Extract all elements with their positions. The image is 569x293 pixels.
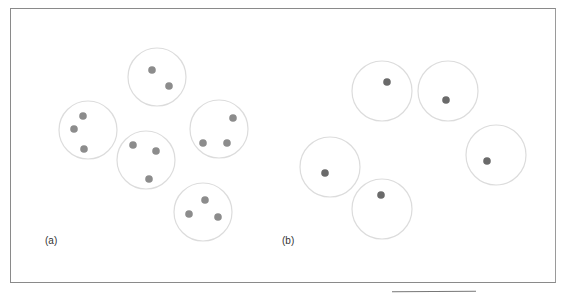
data-point bbox=[377, 191, 385, 199]
data-point bbox=[165, 82, 173, 90]
cluster-circle bbox=[300, 137, 360, 197]
data-point bbox=[483, 157, 491, 165]
cluster bbox=[59, 101, 117, 159]
data-point bbox=[214, 213, 222, 221]
panel-b bbox=[300, 61, 526, 239]
cluster-circle bbox=[466, 125, 526, 185]
data-point bbox=[185, 210, 193, 218]
cluster bbox=[352, 179, 412, 239]
cluster-diagram bbox=[0, 0, 569, 293]
data-point bbox=[148, 66, 156, 74]
data-point bbox=[79, 112, 87, 120]
data-point bbox=[70, 125, 78, 133]
data-point bbox=[442, 96, 450, 104]
cluster-circle bbox=[418, 61, 478, 121]
cluster-circle bbox=[352, 179, 412, 239]
cluster-circle bbox=[128, 48, 186, 106]
data-point bbox=[383, 78, 391, 86]
cluster-circle bbox=[352, 61, 412, 121]
cluster bbox=[174, 183, 232, 241]
cluster bbox=[300, 137, 360, 197]
data-point bbox=[129, 141, 137, 149]
panel-label-a: (a) bbox=[45, 235, 57, 246]
cluster-circle bbox=[190, 100, 248, 158]
data-point bbox=[152, 147, 160, 155]
data-point bbox=[223, 139, 231, 147]
data-point bbox=[201, 196, 209, 204]
data-point bbox=[199, 139, 207, 147]
cluster-circle bbox=[59, 101, 117, 159]
cluster bbox=[418, 61, 478, 121]
cluster-circle bbox=[174, 183, 232, 241]
data-point bbox=[229, 114, 237, 122]
cluster bbox=[117, 131, 175, 189]
cluster bbox=[128, 48, 186, 106]
cluster bbox=[352, 61, 412, 121]
data-point bbox=[80, 145, 88, 153]
data-point bbox=[145, 175, 153, 183]
panel-a bbox=[59, 48, 248, 241]
cluster bbox=[466, 125, 526, 185]
panel-label-b: (b) bbox=[282, 235, 294, 246]
cluster bbox=[190, 100, 248, 158]
data-point bbox=[321, 169, 329, 177]
